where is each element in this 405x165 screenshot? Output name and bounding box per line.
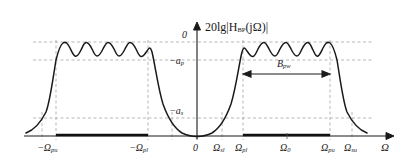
y-axis (194, 22, 201, 139)
x-tick-label-neg-omega-pl: −Ωpl (130, 142, 148, 153)
x-tick-label-neg-omega-pu: −Ωpu (38, 142, 57, 153)
neg-omega-pl-omega: Ω (136, 142, 143, 153)
y-axis-title: 20lg|HBP(jΩ)| (205, 20, 268, 35)
chart-canvas (0, 0, 405, 165)
omega-sl-sub: sl (220, 146, 224, 153)
y-tick-label-as: −as (170, 105, 183, 116)
omega-su-sub: su (351, 146, 357, 153)
x-tick-label-zero: 0 (193, 142, 198, 153)
y-tick-label-0: 0 (182, 29, 187, 40)
x-tick-label-omega-pu: Ωpu (321, 142, 335, 153)
y-axis-title-suffix: )| (262, 20, 268, 34)
y-tick-as-sub: s (181, 109, 184, 116)
x-tick-label-omega-su: Ωsu (344, 142, 357, 153)
omega-0-sub: 0 (287, 146, 290, 153)
y-axis-title-omega: Ω (253, 20, 262, 34)
y-tick-label-ap: −ap (170, 55, 184, 66)
grid-horizontal (33, 42, 372, 118)
neg-omega-pl-sub: pl (143, 146, 148, 153)
bandwidth-arrow-right (322, 71, 330, 77)
omega-pu-sub: pu (328, 146, 335, 153)
bandwidth-arrow (243, 71, 330, 77)
omega-pl-sub: pl (242, 146, 247, 153)
bandpass-response-figure: 20lg|HBP(jΩ)| 0 −ap −as −Ωpu −Ωpl 0 Ωsl … (0, 0, 405, 165)
bandwidth-arrow-left (243, 71, 251, 77)
y-axis-title-prefix: 20lg| (205, 20, 229, 34)
y-tick-ap-sub: p (181, 59, 184, 66)
x-axis-arrowhead (386, 133, 394, 140)
bandwidth-label: Bpw (277, 58, 291, 69)
x-tick-label-omega-0: Ω0 (280, 142, 290, 153)
bandwidth-sub: pw (283, 62, 291, 69)
y-axis-arrowhead (194, 22, 201, 30)
neg-omega-pu-omega: Ω (44, 142, 51, 153)
x-axis-title: Ω (381, 141, 389, 153)
x-tick-label-omega-sl: Ωsl (213, 142, 225, 153)
neg-omega-pu-sub: pu (51, 146, 58, 153)
x-tick-label-omega-pl: Ωpl (235, 142, 247, 153)
y-axis-title-arg: (j (245, 20, 252, 34)
